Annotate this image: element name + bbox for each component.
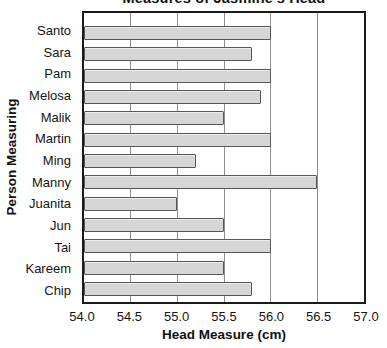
x-axis-label: Head Measure (cm): [82, 327, 366, 342]
bar-row: [84, 175, 364, 189]
bar-row: [84, 69, 364, 83]
category-label-santo: Santo: [0, 24, 76, 38]
category-label-chip: Chip: [0, 284, 76, 298]
x-tick-label: 55.0: [164, 309, 189, 324]
bar-manny: [84, 175, 317, 189]
bar-rows: [84, 13, 364, 302]
bar-chip: [84, 282, 252, 296]
x-tick-label: 56.0: [259, 309, 284, 324]
bar-row: [84, 90, 364, 104]
plot-area: [82, 11, 366, 304]
bar-kareem: [84, 261, 224, 275]
bar-row: [84, 261, 364, 275]
bar-tai: [84, 239, 271, 253]
category-label-kareem: Kareem: [0, 262, 76, 276]
bar-row: [84, 26, 364, 40]
x-tick-label: 54.5: [117, 309, 142, 324]
bar-ming: [84, 154, 196, 168]
bar-martin: [84, 133, 271, 147]
category-label-pam: Pam: [0, 67, 76, 81]
bar-row: [84, 111, 364, 125]
bar-row: [84, 239, 364, 253]
bar-row: [84, 218, 364, 232]
x-tick-label: 56.5: [306, 309, 331, 324]
y-axis-label: Person Measuring: [4, 98, 19, 215]
x-tick-label: 57.0: [353, 309, 378, 324]
x-tick-label: 55.5: [211, 309, 236, 324]
x-tick-label: 54.0: [69, 309, 94, 324]
bar-santo: [84, 26, 271, 40]
bar-row: [84, 197, 364, 211]
chart-title-clip: Measures of Jasmine's Head: [60, 0, 387, 8]
category-label-sara: Sara: [0, 46, 76, 60]
bar-row: [84, 154, 364, 168]
category-label-tai: Tai: [0, 241, 76, 255]
bar-row: [84, 47, 364, 61]
bar-juanita: [84, 197, 177, 211]
worksheet-chart-page: { "title": "Measures of Jasmine's Head",…: [0, 0, 387, 348]
bar-row: [84, 133, 364, 147]
bar-melosa: [84, 90, 261, 104]
bar-pam: [84, 69, 271, 83]
bar-jun: [84, 218, 224, 232]
bar-malik: [84, 111, 224, 125]
chart-title: Measures of Jasmine's Head: [60, 0, 387, 6]
bar-sara: [84, 47, 252, 61]
bar-row: [84, 282, 364, 296]
category-label-jun: Jun: [0, 219, 76, 233]
